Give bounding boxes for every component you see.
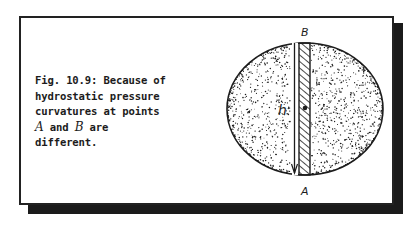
- center-dot: [303, 106, 308, 111]
- label-b: B: [301, 26, 309, 39]
- label-h: h: [278, 102, 287, 118]
- drop-diagram: B A h: [0, 0, 417, 226]
- label-a: A: [300, 185, 309, 198]
